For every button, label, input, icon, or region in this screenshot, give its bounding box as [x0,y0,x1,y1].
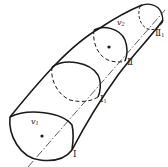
label-section-II-text: Ⅱ [127,57,133,67]
center-point-v2 [107,45,110,48]
section-II1-front [140,4,163,23]
label-section-I-text: Ⅰ [73,149,77,159]
section-II-front [94,28,127,61]
label-section-I1: Ⅰ1 [100,95,107,104]
section-I1-back [52,67,98,101]
label-v2-sub: 2 [122,21,125,27]
central-streamline-axis [28,10,165,167]
label-section-I: Ⅰ [73,150,77,159]
center-point-v1 [40,134,43,137]
label-section-II1: Ⅱ1 [155,29,164,38]
label-v1-sub: 1 [36,120,39,126]
label-v2: v2 [117,19,125,27]
section-I-back [10,112,73,150]
label-section-II: Ⅱ [127,58,133,67]
label-v1: v1 [31,118,39,126]
streamtube-diagram [0,0,168,167]
label-section-II1-sub: 1 [161,32,164,38]
section-I-front [10,117,72,161]
label-section-I1-sub: 1 [104,98,107,104]
tube-right-edge [72,20,163,150]
